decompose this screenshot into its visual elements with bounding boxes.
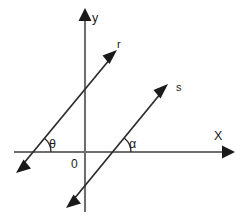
diagram-canvas: X y 0 r s θ α (0, 0, 243, 221)
ray-r-arrowhead-lower (16, 160, 31, 174)
ray-r-line (24, 59, 110, 163)
ray-r-label: r (117, 38, 121, 50)
x-axis (14, 146, 235, 159)
ray-s-arrowhead-lower (66, 195, 81, 209)
x-axis-arrowhead-right (222, 146, 235, 159)
y-axis (79, 8, 92, 212)
ray-r-arrowhead-upper (103, 50, 118, 64)
ray-s-arrowhead-upper (154, 84, 169, 99)
origin-label: 0 (71, 157, 78, 171)
ray-s-line (74, 93, 161, 199)
ray-s-label: s (176, 81, 182, 93)
x-axis-label: X (214, 129, 223, 143)
y-axis-arrowhead-up (79, 8, 92, 21)
geometry-diagram: X y 0 r s θ α (0, 0, 243, 221)
angle-label-theta: θ (49, 137, 56, 151)
ray-s (66, 84, 168, 208)
ray-r (16, 50, 117, 173)
y-axis-label: y (92, 11, 99, 25)
angle-label-alpha: α (129, 137, 136, 151)
